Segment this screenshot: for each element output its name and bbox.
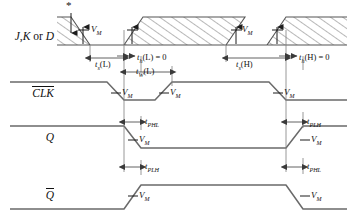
timing-label-tplh-qbar: tPLH [145, 161, 159, 173]
waveform-qbar [10, 185, 347, 209]
vm-ticks [78, 27, 310, 196]
reference-lines [90, 30, 303, 175]
timing-label-tphl-qbar: tPHL [307, 161, 321, 173]
row-label-clk-text: CLK [32, 86, 54, 99]
vm-label-data-1: VM [91, 24, 102, 36]
dimension-arrows [91, 56, 302, 167]
row-label-q-text: Q [46, 131, 54, 143]
timing-diagram-figure: * J,K or D CLK Q Q VM VM VM VM VM VM VM … [0, 0, 347, 218]
row-label-qbar-text: Q [46, 188, 54, 201]
waveform-q [10, 126, 347, 148]
vm-label-qbar-2: VM [311, 190, 322, 202]
qbar-trace [10, 185, 347, 209]
timing-label-tplh-q: tPLH [307, 116, 321, 128]
timing-label-tphl-q: tPHL [145, 116, 159, 128]
row-label-qbar: Q [2, 188, 54, 201]
vm-label-clk-2: VM [170, 87, 181, 99]
row-label-data: J,K or D [2, 30, 54, 42]
row-label-q: Q [2, 131, 54, 143]
vm-label-q-1: VM [139, 134, 150, 146]
row-label-clk: CLK [2, 86, 54, 99]
asterisk-note: * [66, 0, 72, 11]
timing-label-th-high: th(H) = 0 [299, 52, 330, 64]
vm-label-clk-3: VM [284, 87, 295, 99]
vm-label-qbar-1: VM [139, 190, 150, 202]
vm-label-clk-1: VM [122, 87, 133, 99]
q-trace [10, 126, 347, 148]
vm-label-data-3: VM [242, 24, 253, 36]
timing-label-ts-high: ts(H) [236, 59, 253, 71]
data-block-2-fill [124, 17, 245, 45]
timing-label-tw-low: tW(L) [136, 66, 154, 78]
timing-label-th-low: th(L) = 0 [137, 52, 167, 64]
data-block-3-fill [267, 17, 347, 45]
timing-label-ts-low: ts(L) [95, 59, 111, 71]
vm-label-q-2: VM [311, 134, 322, 146]
